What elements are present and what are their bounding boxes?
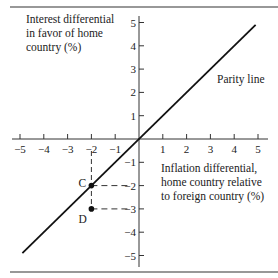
- x-axis-label-line-3: to foreign country (%): [161, 190, 264, 203]
- chart-canvas: −5−4−3−2−112345 54321−1−2−3−4−5 CD Parit…: [0, 0, 278, 278]
- x-tick-label: 3: [208, 143, 214, 155]
- x-tick-label: −5: [14, 143, 26, 155]
- x-tick-label: −1: [109, 143, 121, 155]
- point-c-label: C: [78, 177, 86, 189]
- y-tick-label: 5: [131, 17, 137, 29]
- y-tick-label: −5: [124, 250, 136, 262]
- point-c: [89, 183, 95, 189]
- x-tick-label: 2: [184, 143, 190, 155]
- x-axis-label-line-1: Inflation differential,: [161, 162, 257, 175]
- y-tick-label: −1: [124, 156, 136, 168]
- y-tick-label: −4: [124, 226, 136, 238]
- parity-chart: −5−4−3−2−112345 54321−1−2−3−4−5 CD Parit…: [0, 0, 278, 278]
- y-axis-label-line-3: country (%): [26, 41, 81, 54]
- x-tick-label: −3: [62, 143, 74, 155]
- x-tick-label: 1: [160, 143, 166, 155]
- y-tick-label: 3: [131, 63, 137, 75]
- y-axis-label-line-1: Interest differential: [26, 13, 114, 25]
- parity-line-label: Parity line: [217, 73, 265, 86]
- y-tick-label: 2: [131, 86, 137, 98]
- x-tick-label: 4: [231, 143, 237, 155]
- x-tick-label: −4: [38, 143, 50, 155]
- point-d-label: D: [78, 213, 86, 225]
- y-axis-label-line-2: in favor of home: [26, 27, 103, 39]
- point-d: [89, 206, 95, 212]
- x-ticks: −5−4−3−2−112345: [14, 134, 261, 155]
- y-tick-label: 1: [131, 110, 137, 122]
- x-axis-label-line-2: home country relative: [161, 176, 262, 189]
- x-tick-label: 5: [255, 143, 261, 155]
- y-tick-label: 4: [131, 40, 137, 52]
